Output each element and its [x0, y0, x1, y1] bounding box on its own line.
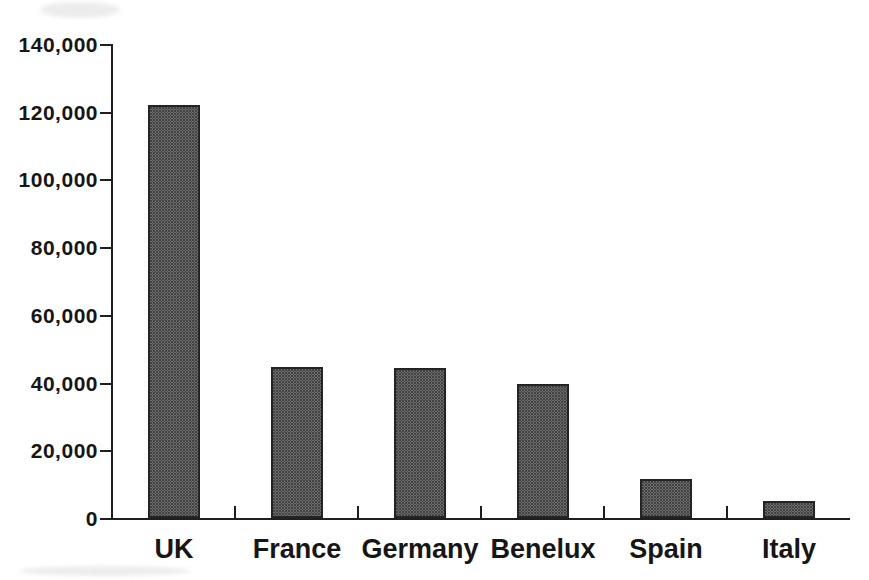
- y-axis-tick-label: 80,000: [0, 235, 98, 261]
- x-axis-tick: [726, 506, 728, 518]
- x-axis-category-label: France: [235, 533, 359, 565]
- y-axis-tick: [100, 112, 111, 114]
- scan-artifact: [40, 2, 120, 18]
- bar-spain: [640, 479, 692, 518]
- y-axis-tick-label: 0: [0, 506, 98, 532]
- x-axis-category-label: Benelux: [481, 533, 605, 565]
- y-axis-tick: [100, 179, 111, 181]
- y-axis-tick-label: 20,000: [0, 438, 98, 464]
- y-axis-tick: [100, 450, 111, 452]
- bar-france: [271, 367, 323, 518]
- y-axis-tick-label: 100,000: [0, 167, 98, 193]
- scan-artifact: [20, 566, 190, 576]
- bar-benelux: [517, 384, 569, 518]
- x-axis-line: [111, 518, 850, 520]
- y-axis-tick: [100, 383, 111, 385]
- x-axis-tick: [480, 506, 482, 518]
- y-axis-tick-label: 60,000: [0, 303, 98, 329]
- x-axis-category-label: UK: [112, 533, 236, 565]
- y-axis-tick: [100, 315, 111, 317]
- bar-germany: [394, 368, 446, 518]
- bar-uk: [148, 105, 200, 518]
- x-axis-category-label: Italy: [727, 533, 851, 565]
- x-axis-category-label: Spain: [604, 533, 728, 565]
- y-axis-tick-label: 40,000: [0, 371, 98, 397]
- y-axis-tick: [100, 247, 111, 249]
- bar-italy: [763, 501, 815, 518]
- y-axis-tick-label: 140,000: [0, 32, 98, 58]
- x-axis-tick: [603, 506, 605, 518]
- x-axis-tick: [234, 506, 236, 518]
- bar-chart: 020,00040,00060,00080,000100,000120,0001…: [0, 0, 869, 580]
- y-axis-tick: [100, 44, 111, 46]
- x-axis-category-label: Germany: [358, 533, 482, 565]
- y-axis-line: [111, 44, 113, 520]
- y-axis-tick-label: 120,000: [0, 100, 98, 126]
- x-axis-tick: [357, 506, 359, 518]
- y-axis-tick: [100, 518, 111, 520]
